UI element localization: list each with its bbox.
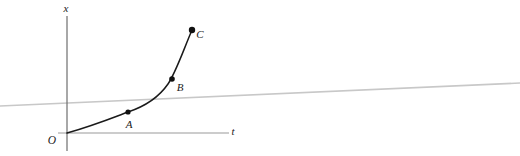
point-marker-b <box>169 76 175 82</box>
point-label-c: C <box>196 28 204 40</box>
t-axis-label: t <box>231 125 235 137</box>
point-label-b: B <box>177 81 184 93</box>
origin-label: O <box>48 134 57 146</box>
position-time-figure: x t O A B C <box>0 0 520 156</box>
point-label-a: A <box>125 118 133 130</box>
graph-canvas: x t O A B C <box>0 0 520 156</box>
x-axis-label: x <box>63 2 69 14</box>
tangent-reference-line <box>0 83 520 106</box>
point-marker-c <box>189 27 195 33</box>
point-marker-a <box>125 109 130 114</box>
